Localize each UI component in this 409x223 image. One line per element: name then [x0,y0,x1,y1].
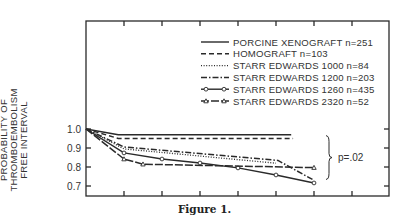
series-path [86,129,314,180]
data-series [86,129,316,185]
legend-entry: STARR EDWARDS 2320 n=52 [201,96,369,107]
circle-marker [222,87,226,91]
series-line [86,129,314,180]
legend-entry: HOMOGRAFT n=103 [201,48,328,59]
circle-marker [204,87,208,91]
p-value-annotation: p=.02 [326,136,364,180]
circle-marker [274,173,278,177]
y-tick-label: 0.8 [67,162,81,173]
series-path [86,129,291,135]
y-tick-label: 1.0 [67,124,81,135]
legend-entry: STARR EDWARDS 1200 n=203 [201,72,375,83]
legend-entry: PORCINE XENOGRAFT n=251 [201,37,373,48]
circle-marker [198,161,202,165]
circle-marker [160,157,164,161]
circle-marker [312,181,316,185]
series-path [86,129,293,139]
legend-label: STARR EDWARDS 1200 n=203 [233,72,375,83]
y-tick-label: 0.7 [67,181,81,192]
figure-caption: Figure 1. [0,203,409,215]
circle-marker [122,151,126,155]
triangle-marker [222,99,226,103]
triangle-marker [141,162,145,166]
brace-icon [326,136,332,180]
legend-label: STARR EDWARDS 1260 n=435 [233,84,375,95]
series-line [86,129,291,135]
figure-chart: 1.00.90.80.7 PORCINE XENOGRAFT n=251HOMO… [0,0,409,223]
series-line [86,129,293,139]
legend-entry: STARR EDWARDS 1000 n=84 [201,60,369,71]
triangle-marker [204,99,208,103]
legend-label: STARR EDWARDS 1000 n=84 [233,60,369,71]
y-axis-label-line-3: FREE INTERVAL [19,88,29,191]
y-tick-label: 0.9 [67,143,81,154]
legend-label: HOMOGRAFT n=103 [233,48,328,59]
legend-label: PORCINE XENOGRAFT n=251 [233,37,373,48]
y-tick-labels: 1.00.90.80.7 [67,124,81,192]
triangle-marker [312,165,316,169]
legend-label: STARR EDWARDS 2320 n=52 [233,96,369,107]
p-value-label: p=.02 [338,152,364,163]
legend: PORCINE XENOGRAFT n=251HOMOGRAFT n=103ST… [201,37,375,107]
legend-entry: STARR EDWARDS 1260 n=435 [201,84,375,95]
